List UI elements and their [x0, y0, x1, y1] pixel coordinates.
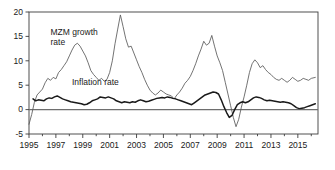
y-tick-label: 20 [14, 7, 24, 17]
annotation-label: Inflation rate [72, 77, 119, 87]
x-tick-label: 1999 [73, 140, 92, 150]
x-tick-label: 2001 [100, 140, 119, 150]
annotation-label: rate [51, 37, 66, 47]
x-axis-ticks [29, 134, 311, 138]
x-axis-labels: 1995199719992001200320052007200920112013… [20, 140, 308, 150]
x-tick-label: 2011 [235, 140, 254, 150]
x-tick-label: 2007 [181, 140, 200, 150]
x-tick-label: 1995 [20, 140, 39, 150]
x-tick-label: 2013 [261, 140, 280, 150]
series-line-inflation-rate [33, 92, 315, 117]
y-tick-label: 0 [18, 104, 23, 114]
annotation-label: MZM growth [51, 27, 98, 37]
chart-container: 20151050-5 19951997199920012003200520072… [0, 0, 335, 170]
x-tick-label: 1997 [46, 140, 65, 150]
x-tick-label: 2005 [154, 140, 173, 150]
y-tick-label: 10 [14, 56, 24, 66]
y-tick-label: 15 [14, 31, 24, 41]
x-tick-label: 2015 [288, 140, 307, 150]
y-axis-ticks [26, 12, 30, 134]
series-annotations: MZM growthrateInflation rate [51, 27, 120, 87]
y-tick-label: -5 [15, 129, 23, 139]
y-tick-label: 5 [18, 80, 23, 90]
y-axis-labels: 20151050-5 [14, 7, 24, 139]
line-chart: 20151050-5 19951997199920012003200520072… [0, 0, 335, 170]
x-tick-label: 2009 [208, 140, 227, 150]
x-tick-label: 2003 [127, 140, 146, 150]
